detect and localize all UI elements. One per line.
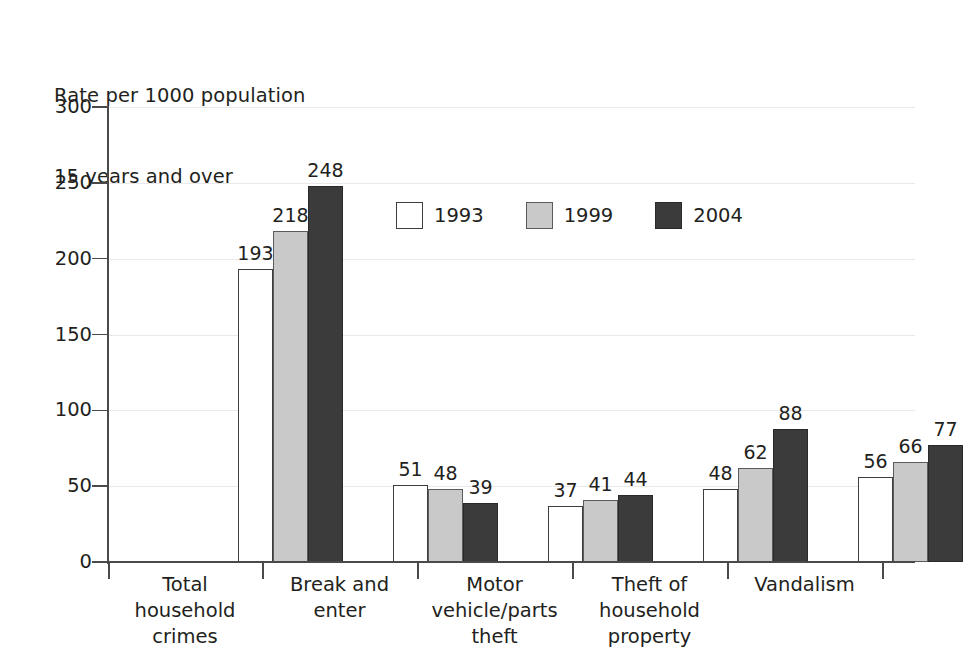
legend-label-1993: 1993	[434, 206, 484, 226]
category-separator-6	[882, 563, 884, 579]
bar-2004-group-3	[618, 495, 653, 562]
bar-2004-group-5	[928, 445, 963, 562]
gridline-300	[108, 107, 915, 108]
y-tick-label-200: 200	[34, 249, 92, 269]
legend-item-1993[interactable]: 1993	[396, 202, 484, 229]
light-gray-square-icon	[526, 202, 553, 229]
y-tick-mark-100	[92, 410, 107, 412]
x-axis-category-label-5: Vandalism	[727, 572, 882, 598]
bar-value-2004-group-5: 77	[916, 420, 967, 439]
white-square-icon	[396, 202, 423, 229]
bar-2004-group-2	[463, 503, 498, 562]
bar-1993-group-1	[238, 269, 273, 562]
bar-value-2004-group-4: 88	[761, 404, 820, 423]
y-tick-label-150: 150	[34, 325, 92, 345]
x-axis-category-label-2: Break and enter	[262, 572, 417, 624]
x-axis-category-label-3: Motor vehicle/parts theft	[417, 572, 572, 650]
x-axis-category-label-4: Theft of household property	[572, 572, 727, 650]
y-tick-mark-200	[92, 258, 107, 260]
bar-1999-group-4	[738, 468, 773, 562]
y-tick-mark-150	[92, 334, 107, 336]
bar-value-2004-group-2: 39	[451, 478, 510, 497]
chart-legend: 199319992004	[396, 202, 743, 229]
y-axis-tick-marks	[92, 0, 108, 659]
y-tick-label-50: 50	[34, 476, 92, 496]
y-tick-label-300: 300	[34, 97, 92, 117]
bar-1999-group-5	[893, 462, 928, 562]
bar-2004-group-4	[773, 429, 808, 562]
bar-1993-group-2	[393, 485, 428, 562]
x-axis-category-label-1: Total household crimes	[108, 572, 262, 650]
y-tick-label-100: 100	[34, 400, 92, 420]
y-tick-label-250: 250	[34, 173, 92, 193]
y-tick-mark-250	[92, 182, 107, 184]
y-axis-tick-labels: 050100150200250300	[34, 0, 92, 659]
y-tick-label-0: 0	[34, 552, 92, 572]
x-axis-line	[92, 561, 915, 563]
legend-item-1999[interactable]: 1999	[526, 202, 614, 229]
legend-label-2004: 2004	[693, 206, 743, 226]
bar-2004-group-1	[308, 186, 343, 562]
plot-area: 193218248514839374144486288566677	[108, 107, 915, 562]
y-tick-mark-50	[92, 485, 107, 487]
gridline-150	[108, 335, 915, 336]
legend-item-2004[interactable]: 2004	[655, 202, 743, 229]
bar-value-2004-group-1: 248	[296, 161, 355, 180]
bar-1999-group-1	[273, 231, 308, 562]
y-tick-mark-300	[92, 106, 107, 108]
y-tick-mark-0	[92, 561, 107, 563]
bar-1999-group-3	[583, 500, 618, 562]
gridline-250	[108, 183, 915, 184]
legend-label-1999: 1999	[564, 206, 614, 226]
dark-gray-square-icon	[655, 202, 682, 229]
bar-1993-group-3	[548, 506, 583, 562]
bar-value-2004-group-3: 44	[606, 470, 665, 489]
bar-1993-group-4	[703, 489, 738, 562]
bar-1999-group-2	[428, 489, 463, 562]
bar-1993-group-5	[858, 477, 893, 562]
